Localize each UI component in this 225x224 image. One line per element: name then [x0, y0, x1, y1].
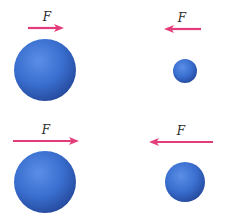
- panel-top-right: F: [164, 11, 201, 83]
- sphere-medium: [165, 162, 205, 202]
- sphere-small: [173, 59, 197, 83]
- sphere-large: [14, 151, 76, 213]
- force-diagram: F F F F: [0, 0, 225, 224]
- force-label: F: [176, 124, 186, 138]
- force-arrow-left-icon: [149, 138, 213, 146]
- force-label: F: [42, 10, 52, 24]
- force-arrow-left-icon: [164, 25, 201, 33]
- panel-top-left: F: [14, 10, 76, 101]
- panel-bottom-right: F: [149, 124, 213, 202]
- force-arrow-right-icon: [13, 137, 79, 145]
- force-arrow-right-icon: [28, 24, 64, 32]
- panel-bottom-left: F: [13, 123, 79, 213]
- force-label: F: [177, 11, 187, 25]
- sphere-large: [14, 39, 76, 101]
- force-label: F: [41, 123, 51, 137]
